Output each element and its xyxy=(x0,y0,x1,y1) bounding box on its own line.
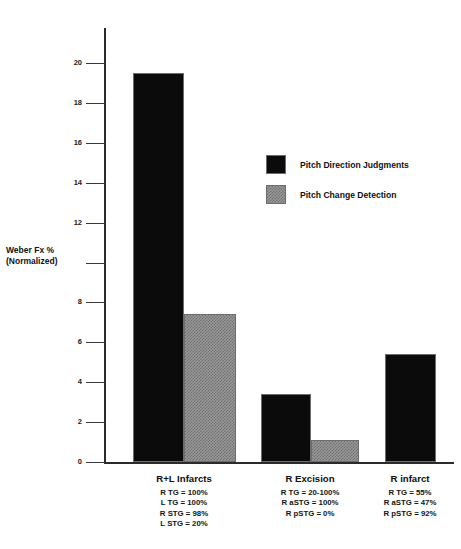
bar-dark-0 xyxy=(133,73,184,462)
y-axis-tick-label: 14 xyxy=(56,179,82,187)
y-axis-tick xyxy=(86,183,105,184)
legend-swatch-dark-icon xyxy=(266,155,286,174)
x-axis-line xyxy=(104,462,454,464)
x-axis-group-2: R infarctR TG = 55%R aSTG = 47%R pSTG = … xyxy=(330,474,461,519)
x-axis-group-annotation: R pSTG = 92% xyxy=(330,509,461,520)
y-axis-tick xyxy=(86,382,105,383)
y-axis-tick xyxy=(86,63,105,64)
y-axis-tick xyxy=(86,422,105,423)
y-axis-tick-label: 0 xyxy=(56,458,82,466)
y-axis-tick xyxy=(86,103,105,104)
y-axis-tick xyxy=(86,263,105,264)
y-axis-tick-label: 8 xyxy=(56,298,82,306)
bar-gray-1 xyxy=(311,440,359,462)
y-axis-title-line-1: Weber Fx % xyxy=(6,245,84,256)
y-axis-title-line-2: (Normalized) xyxy=(6,256,84,267)
legend-label-pitch-direction-judgments: Pitch Direction Judgments xyxy=(300,160,409,170)
x-axis-group-annotation: R TG = 55% xyxy=(330,488,461,499)
legend-label-pitch-change-detection: Pitch Change Detection xyxy=(300,190,396,200)
legend-item-pitch-direction-judgments: Pitch Direction Judgments xyxy=(266,155,409,174)
legend-swatch-gray-icon xyxy=(266,185,286,204)
x-axis-group-annotation: L STG = 20% xyxy=(104,519,264,530)
y-axis-title: Weber Fx % (Normalized) xyxy=(6,245,84,267)
y-axis-tick xyxy=(86,462,105,463)
bar-dark-2 xyxy=(385,354,436,462)
y-axis-tick-label: 16 xyxy=(56,139,82,147)
bar-dark-1 xyxy=(261,394,311,462)
y-axis-line xyxy=(104,28,106,464)
legend-item-pitch-change-detection: Pitch Change Detection xyxy=(266,185,409,204)
bar-gray-0 xyxy=(184,314,236,462)
y-axis-tick xyxy=(86,302,105,303)
chart-figure: Weber Fx % (Normalized) 201816141286420 … xyxy=(0,0,461,549)
x-axis-group-annotation: R aSTG = 47% xyxy=(330,498,461,509)
y-axis-tick-label: 18 xyxy=(56,99,82,107)
y-axis-tick-label: 2 xyxy=(56,418,82,426)
y-axis-tick-label: 20 xyxy=(56,59,82,67)
y-axis-tick-label: 4 xyxy=(56,378,82,386)
y-axis-tick xyxy=(86,143,105,144)
x-axis-group-title: R infarct xyxy=(330,474,461,484)
y-axis-tick-label: 12 xyxy=(56,219,82,227)
y-axis-tick xyxy=(86,223,105,224)
y-axis-tick xyxy=(86,342,105,343)
chart-legend: Pitch Direction Judgments Pitch Change D… xyxy=(266,155,409,215)
y-axis-tick-label: 6 xyxy=(56,338,82,346)
